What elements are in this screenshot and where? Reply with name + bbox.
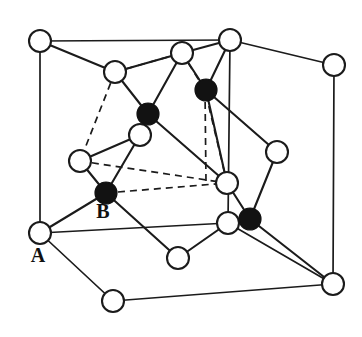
atom-a-open	[129, 124, 151, 146]
atom-b-filled	[195, 79, 217, 101]
cell-edge-solid	[40, 223, 228, 233]
cell-edge-solid	[228, 40, 230, 223]
cell-edge-solid	[228, 223, 333, 284]
atom-a-open	[323, 54, 345, 76]
cell-edge-solid	[40, 40, 230, 41]
bond-line	[206, 90, 227, 183]
bond-line	[250, 219, 333, 284]
cell-edge-dashed	[205, 90, 206, 182]
atom-a-open	[69, 150, 91, 172]
cell-edge-dashed	[106, 183, 227, 193]
atom-a-open	[102, 290, 124, 312]
cell-edge-solid	[113, 284, 333, 301]
label-a: A	[31, 244, 46, 266]
atom-b-filled	[137, 103, 159, 125]
atom-a-open	[29, 30, 51, 52]
atom-a-open	[322, 273, 344, 295]
crystal-structure-diagram: AB	[0, 0, 362, 337]
atom-a-open	[171, 42, 193, 64]
bond-line	[148, 114, 227, 183]
cell-edge-solid	[230, 40, 334, 65]
bond-line	[40, 41, 115, 72]
atom-a-open	[217, 212, 239, 234]
atoms	[29, 29, 345, 312]
atom-a-open	[266, 141, 288, 163]
cell-edge-solid	[333, 65, 334, 284]
atom-a-open	[219, 29, 241, 51]
crystal-structure-figure: AB	[0, 0, 362, 337]
cell-edge-solid	[40, 233, 113, 301]
atom-b-filled	[239, 208, 261, 230]
atom-a-open	[167, 247, 189, 269]
atom-a-open	[216, 172, 238, 194]
label-b: B	[96, 200, 109, 222]
atom-a-open	[29, 222, 51, 244]
atom-a-open	[104, 61, 126, 83]
